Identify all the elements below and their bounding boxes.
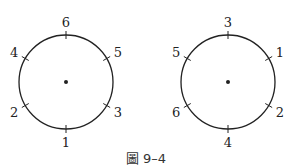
left-label-bottom: 1 <box>62 135 70 150</box>
right-center-dot <box>226 80 230 84</box>
left-label-lower-left: 2 <box>10 105 18 120</box>
figure-9-4: 653124312465圖 9–4 <box>0 0 289 168</box>
left-label-top: 6 <box>62 15 70 30</box>
right-label-bottom: 4 <box>224 135 232 150</box>
left-label-lower-right: 3 <box>114 105 122 120</box>
right-tick-lower-right <box>265 104 272 108</box>
left-circle-group: 653124 <box>10 15 122 150</box>
right-label-lower-left: 6 <box>172 105 180 120</box>
left-tick-upper-right <box>103 57 110 61</box>
left-center-dot <box>64 80 68 84</box>
right-tick-lower-left <box>184 104 191 108</box>
right-label-upper-right: 1 <box>276 45 284 60</box>
right-tick-upper-right <box>265 57 272 61</box>
left-label-upper-left: 4 <box>10 45 18 60</box>
left-tick-lower-right <box>103 104 110 108</box>
right-tick-upper-left <box>184 57 191 61</box>
right-label-upper-left: 5 <box>172 45 180 60</box>
right-label-lower-right: 2 <box>276 105 284 120</box>
right-label-top: 3 <box>224 15 232 30</box>
figure-caption: 圖 9–4 <box>126 151 166 166</box>
right-circle-group: 312465 <box>172 15 284 150</box>
left-label-upper-right: 5 <box>114 45 122 60</box>
left-tick-lower-left <box>22 104 29 108</box>
left-tick-upper-left <box>22 57 29 61</box>
